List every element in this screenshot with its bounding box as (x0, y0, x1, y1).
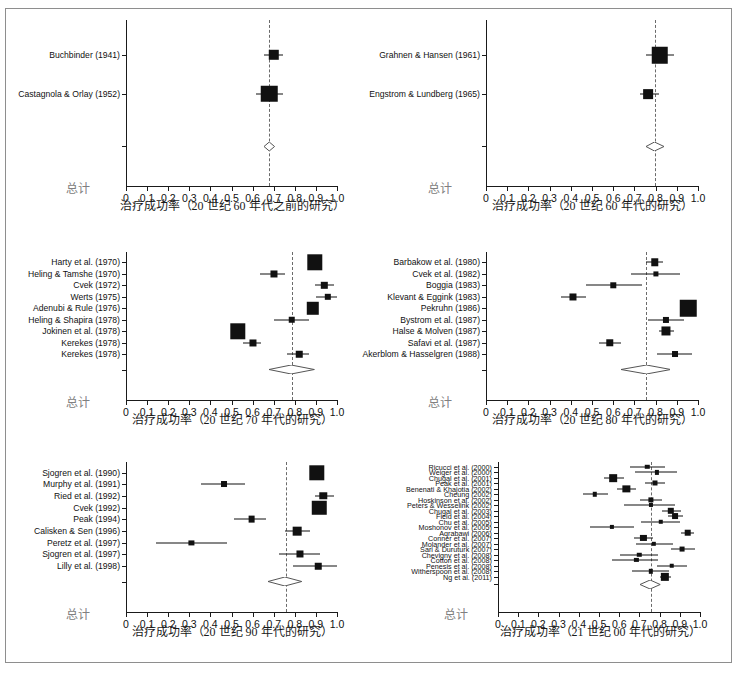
y-tick (494, 505, 498, 506)
y-tick (494, 533, 498, 534)
forest-plot-figure: 00.10.20.30.40.50.60.70.80.91.0Buchbinde… (0, 0, 737, 678)
y-axis-line (498, 462, 499, 612)
study-marker (648, 569, 652, 573)
summary-diamond (640, 580, 660, 589)
study-marker (634, 558, 638, 562)
x-tick (538, 613, 539, 617)
study-marker (672, 513, 678, 519)
study-marker (645, 465, 649, 469)
study-marker (669, 563, 674, 568)
y-tick-summary (494, 584, 498, 585)
study-marker (640, 535, 646, 541)
x-tick (559, 613, 560, 617)
x-tick (680, 613, 681, 617)
panel-2000s: 00.10.20.30.40.50.60.70.80.91.0Ricucci e… (0, 0, 737, 678)
x-axis-label: 治疗成功率（21 世纪 00 年代的研究） (500, 622, 701, 640)
y-tick (494, 566, 498, 567)
y-tick (494, 549, 498, 550)
y-tick (494, 516, 498, 517)
y-tick (494, 555, 498, 556)
y-tick (494, 560, 498, 561)
study-marker (654, 470, 658, 474)
x-tick (660, 613, 661, 617)
y-tick (494, 577, 498, 578)
study-marker (685, 529, 692, 536)
study-marker (651, 542, 655, 546)
study-marker (610, 525, 614, 529)
y-tick (494, 538, 498, 539)
y-tick (494, 489, 498, 490)
study-marker (593, 492, 597, 496)
summary-total-label: 总计 (444, 605, 468, 623)
y-tick (494, 494, 498, 495)
y-tick (494, 478, 498, 479)
study-marker (623, 485, 630, 492)
x-tick (619, 613, 620, 617)
y-tick (494, 472, 498, 473)
study-label: Ng et al. (2011) (443, 572, 492, 581)
x-tick (579, 613, 580, 617)
y-tick (494, 544, 498, 545)
x-tick (599, 613, 600, 617)
y-tick (494, 522, 498, 523)
y-tick (494, 467, 498, 468)
y-tick (494, 571, 498, 572)
x-tick (518, 613, 519, 617)
x-tick (498, 613, 499, 617)
y-tick (494, 500, 498, 501)
y-tick (494, 527, 498, 528)
study-marker (648, 503, 652, 507)
study-marker (609, 474, 617, 482)
study-marker (652, 481, 657, 486)
study-marker (658, 520, 662, 524)
y-tick (494, 483, 498, 484)
x-tick (700, 613, 701, 617)
y-tick (494, 511, 498, 512)
study-marker (679, 547, 684, 552)
study-marker (661, 573, 669, 581)
study-marker (637, 553, 641, 557)
study-marker (648, 497, 653, 502)
x-tick (639, 613, 640, 617)
